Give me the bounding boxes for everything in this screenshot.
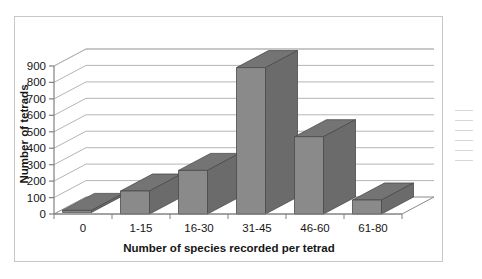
margin-text-sliver (455, 130, 473, 131)
figure-page: 900 800 700 600 500 400 300 200 100 0 (0, 0, 482, 279)
x-tick-label: 61-80 (358, 222, 387, 234)
x-tick-label: 1-15 (129, 222, 152, 234)
y-tick-label: 100 (27, 192, 46, 204)
x-axis (54, 214, 402, 219)
bar-front-face (237, 68, 266, 214)
bar-4 (295, 120, 356, 214)
y-axis-title: Number of tetrads (18, 84, 30, 183)
x-tick-label: 46-60 (300, 222, 329, 234)
x-axis-ticks (54, 214, 402, 219)
bar-chart: 900 800 700 600 500 400 300 200 100 0 (14, 16, 443, 262)
y-tick-label: 0 (40, 208, 46, 220)
y-axis (49, 66, 54, 214)
page-margin-artifacts (455, 110, 479, 205)
bar-front-face (179, 170, 208, 214)
margin-text-sliver (455, 140, 473, 141)
bar-front-face (121, 191, 150, 214)
bar-front-face (353, 200, 382, 214)
margin-text-sliver (455, 120, 473, 121)
y-axis-ticks (49, 66, 54, 214)
bar-front-face (295, 137, 324, 214)
x-tick-label: 0 (80, 222, 86, 234)
margin-text-sliver (455, 110, 473, 111)
margin-text-sliver (455, 150, 473, 151)
x-tick-label: 16-30 (184, 222, 213, 234)
bar-3 (237, 51, 298, 214)
x-tick-label: 31-45 (242, 222, 271, 234)
x-tick-labels: 0 1-15 16-30 31-45 46-60 61-80 (80, 222, 388, 234)
y-tick-label: 900 (27, 60, 46, 72)
margin-text-sliver (455, 160, 473, 161)
x-axis-title: Number of species recorded per tetrad (123, 242, 335, 254)
bar-front-face (63, 210, 92, 212)
bar-side-face (266, 51, 298, 214)
bar-side-face (324, 120, 356, 214)
